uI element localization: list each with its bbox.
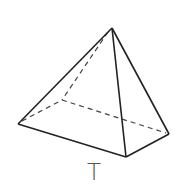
hidden-edge-back-right — [62, 100, 166, 133]
edge-apex-front — [112, 28, 126, 157]
edge-apex-right — [112, 28, 169, 134]
visible-edges — [18, 28, 169, 157]
pyramid-diagram: T — [0, 0, 183, 190]
edge-left-front — [18, 124, 126, 157]
hidden-edge-apex-back — [62, 32, 108, 100]
hidden-edge-left-back — [22, 100, 62, 121]
pyramid-label: T — [87, 159, 101, 185]
edge-apex-left — [18, 28, 112, 124]
edge-front-right — [126, 134, 169, 157]
